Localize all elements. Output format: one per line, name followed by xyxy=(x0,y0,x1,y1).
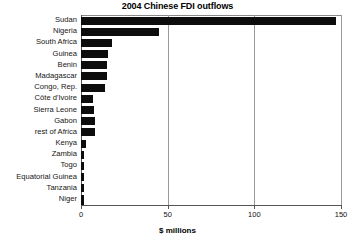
tick-mark-150 xyxy=(341,205,342,209)
y-axis-label-1: Nigeria xyxy=(0,27,77,35)
y-axis-category-labels: SudanNigeriaSouth AfricaGuineaBeninMadag… xyxy=(0,15,77,205)
y-axis-label-4: Benin xyxy=(0,61,77,69)
chart-container: 2004 Chinese FDI outflows 050100150 Suda… xyxy=(0,0,355,250)
bar xyxy=(81,106,94,114)
chart-title: 2004 Chinese FDI outflows xyxy=(0,1,355,11)
bar xyxy=(81,61,107,69)
bar-series xyxy=(81,15,342,205)
x-tick-label-50: 50 xyxy=(163,210,171,219)
x-axis-title: $ millions xyxy=(0,226,355,235)
y-axis-label-6: Congo, Rep. xyxy=(0,83,77,91)
bar xyxy=(81,84,105,92)
y-axis-label-7: Côte d'Ivoire xyxy=(0,94,77,102)
zero-axis-stub xyxy=(81,197,84,205)
y-axis-label-10: rest of Africa xyxy=(0,128,77,136)
y-axis-label-9: Gabon xyxy=(0,117,77,125)
y-axis-label-11: Kenya xyxy=(0,139,77,147)
bar xyxy=(81,151,84,159)
bar xyxy=(81,28,159,36)
bar xyxy=(81,95,93,103)
y-axis-label-2: South Africa xyxy=(0,38,77,46)
bar xyxy=(81,173,84,181)
bar xyxy=(81,39,112,47)
bar xyxy=(81,50,108,58)
bar xyxy=(81,184,84,192)
bar xyxy=(81,117,95,125)
x-tick-label-0: 0 xyxy=(79,210,83,219)
bar xyxy=(81,140,86,148)
y-axis-label-13: Togo xyxy=(0,161,77,169)
tick-mark-100 xyxy=(254,205,255,209)
bar xyxy=(81,17,336,25)
y-axis-label-0: Sudan xyxy=(0,16,77,24)
y-axis-label-15: Tanzania xyxy=(0,184,77,192)
tick-mark-50 xyxy=(168,205,169,209)
x-axis-line xyxy=(81,205,342,206)
bar xyxy=(81,162,84,170)
y-axis-label-12: Zambia xyxy=(0,150,77,158)
tick-mark-0 xyxy=(81,205,82,209)
y-axis-label-3: Guinea xyxy=(0,50,77,58)
y-axis-label-16: Niger xyxy=(0,195,77,203)
y-axis-label-8: Sierra Leone xyxy=(0,106,77,114)
bar xyxy=(81,128,95,136)
x-tick-label-150: 150 xyxy=(335,210,348,219)
bar xyxy=(81,72,107,80)
y-axis-label-5: Madagascar xyxy=(0,72,77,80)
y-axis-label-14: Equatorial Guinea xyxy=(0,173,77,181)
x-tick-label-100: 100 xyxy=(248,210,261,219)
